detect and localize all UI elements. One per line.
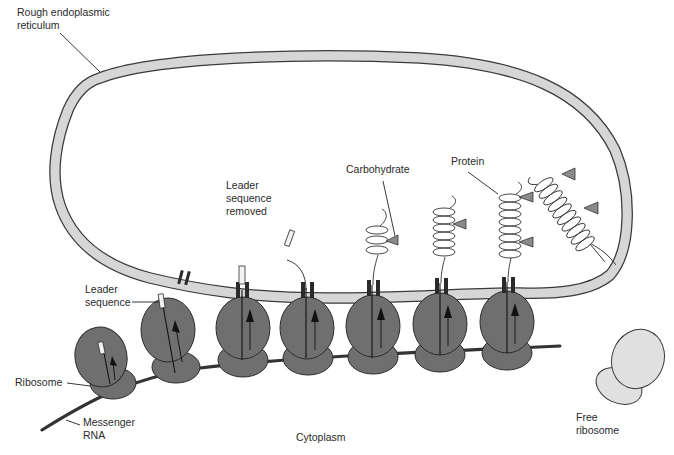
rough-er-label: Rough endoplasmic reticulum	[17, 6, 110, 72]
svg-text:sequence: sequence	[226, 192, 272, 204]
protein-exit-line	[590, 244, 605, 262]
svg-text:reticulum: reticulum	[17, 19, 60, 31]
svg-text:Messenger: Messenger	[83, 416, 135, 428]
svg-text:ribosome: ribosome	[576, 424, 619, 436]
protein-helix-icon	[499, 182, 522, 258]
leader-sequence-icon	[239, 266, 245, 284]
svg-text:Free: Free	[576, 411, 598, 423]
leader-removed-label: Leader sequence removed	[226, 179, 272, 217]
svg-text:sequence: sequence	[85, 296, 131, 308]
rough-er-pointer	[60, 33, 100, 72]
carbohydrate-icon	[386, 235, 398, 245]
ribosome-label: Ribosome	[15, 376, 90, 388]
svg-text:RNA: RNA	[83, 429, 105, 441]
svg-text:Ribosome: Ribosome	[15, 376, 62, 388]
svg-text:removed: removed	[226, 205, 267, 217]
svg-text:Leader: Leader	[226, 179, 259, 191]
ribosome-stage-3	[216, 266, 270, 377]
protein-label: Protein	[451, 155, 498, 194]
er-membrane	[55, 56, 627, 298]
leader-sequence-label: Leader sequence	[85, 283, 159, 308]
rough-er-diagram: Rough endoplasmic reticulum Leader seque…	[0, 0, 674, 455]
svg-text:Protein: Protein	[451, 155, 484, 167]
protein-helix-icon	[366, 209, 388, 254]
carbohydrate-label: Carbohydrate	[346, 163, 410, 236]
protein-helix-icon	[433, 196, 456, 256]
ribosome-stage-6	[413, 196, 467, 372]
carbohydrate-icon	[519, 192, 533, 202]
ribosome-stage-2	[141, 294, 200, 383]
messenger-rna-label: Messenger RNA	[66, 416, 135, 441]
svg-text:Leader: Leader	[85, 283, 118, 295]
svg-text:Carbohydrate: Carbohydrate	[346, 163, 410, 175]
released-protein	[527, 166, 616, 279]
free-ribosome: Free ribosome	[576, 322, 673, 436]
removed-leader-sequence-icon	[284, 230, 294, 247]
cytoplasm-label: Cytoplasm	[296, 431, 346, 443]
ribosome-stage-7	[480, 182, 534, 370]
ribosome-stage-1	[70, 323, 136, 399]
carbohydrate-icon	[584, 202, 598, 214]
svg-text:Rough endoplasmic: Rough endoplasmic	[17, 6, 110, 18]
carbohydrate-icon	[562, 168, 575, 180]
